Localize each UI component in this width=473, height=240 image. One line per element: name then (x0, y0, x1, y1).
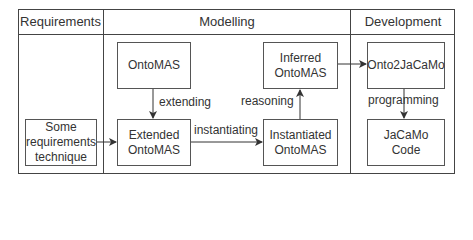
edge-label-programming: programming (368, 93, 439, 107)
edge-label-instantiating: instantiating (194, 123, 258, 137)
edge-label-reasoning: reasoning (241, 94, 294, 108)
edge-label-extending: extending (159, 95, 211, 109)
